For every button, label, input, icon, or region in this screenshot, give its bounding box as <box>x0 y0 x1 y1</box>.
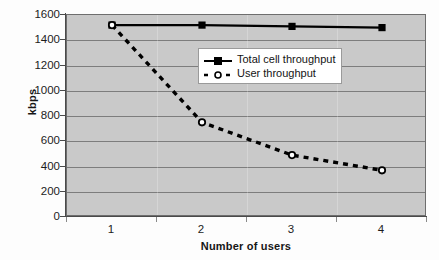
y-axis-tick <box>60 39 65 40</box>
y-axis-tick <box>60 115 65 116</box>
legend-solid-line-square-icon <box>203 53 233 65</box>
x-axis-tick-label: 4 <box>361 223 401 235</box>
series-plot <box>67 15 426 216</box>
data-point-marker <box>379 167 385 173</box>
y-axis-tick <box>60 140 65 141</box>
data-point-marker <box>378 24 385 31</box>
data-point-marker <box>198 22 205 29</box>
x-axis-tick <box>336 217 337 222</box>
x-axis-tick-label: 2 <box>181 223 221 235</box>
plot-area <box>66 14 426 216</box>
data-point-marker <box>109 22 115 28</box>
x-axis-tick <box>426 217 427 222</box>
y-axis-tick-label: 200 <box>14 185 60 197</box>
legend-entry-1: User throughput <box>203 66 335 80</box>
data-point-marker <box>289 152 295 158</box>
y-axis-tick-label: 1400 <box>14 33 60 45</box>
legend-label: User throughput <box>237 67 316 79</box>
data-point-marker <box>199 119 205 125</box>
chart-legend: Total cell throughputUser throughput <box>198 48 342 84</box>
legend-entry-0: Total cell throughput <box>203 52 335 66</box>
y-axis-tick-label: 600 <box>14 134 60 146</box>
y-axis-tick-labels: 02004006008001000120014001600 <box>14 14 60 216</box>
y-axis-tick <box>60 14 65 15</box>
data-point-marker <box>288 23 295 30</box>
series-line-1 <box>112 25 382 170</box>
y-axis-tick-label: 0 <box>14 210 60 222</box>
x-axis-title: Number of users <box>66 240 426 252</box>
y-axis-tick <box>60 191 65 192</box>
series-line-0 <box>112 25 382 28</box>
x-axis-tick <box>66 217 67 222</box>
y-axis-tick-label: 1000 <box>14 84 60 96</box>
x-axis-tick <box>246 217 247 222</box>
y-axis-tick <box>60 90 65 91</box>
x-axis-tick <box>156 217 157 222</box>
legend-label: Total cell throughput <box>237 53 335 65</box>
x-axis-tick-label: 1 <box>91 223 131 235</box>
y-axis-tick <box>60 65 65 66</box>
y-axis-tick-label: 1200 <box>14 59 60 71</box>
throughput-line-chart: kbps 02004006008001000120014001600 1234 … <box>0 0 439 260</box>
y-axis-tick-label: 1600 <box>14 8 60 20</box>
y-axis-tick <box>60 216 65 217</box>
y-axis-tick-label: 400 <box>14 160 60 172</box>
y-axis-tick <box>60 166 65 167</box>
x-axis-tick-label: 3 <box>271 223 311 235</box>
legend-dashed-line-circle-icon <box>203 67 233 79</box>
y-axis-tick-label: 800 <box>14 109 60 121</box>
